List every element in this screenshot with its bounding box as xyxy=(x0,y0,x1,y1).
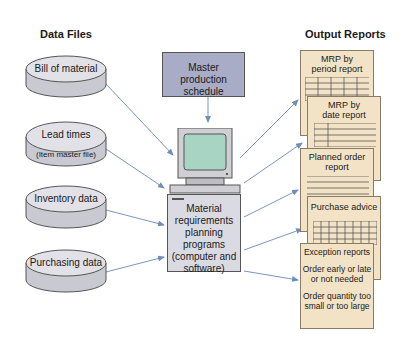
exception-item-2: Order quantity too small or too large xyxy=(301,291,373,311)
mrp-line: planning xyxy=(168,227,240,239)
arrow-purchase xyxy=(244,229,302,250)
arrow-purchasing xyxy=(106,257,164,272)
mps-line2: production schedule xyxy=(163,74,244,98)
data-file-label: Bill of material xyxy=(25,63,107,74)
data-file-label: Purchasing data xyxy=(25,257,107,268)
mrp-line: (computer and xyxy=(168,251,240,263)
database-cylinder-icon xyxy=(25,120,107,168)
arrow-inventory xyxy=(106,210,164,225)
data-files-heading: Data Files xyxy=(40,28,92,40)
report-title: Planned order report xyxy=(301,152,373,172)
table-grid-icon xyxy=(313,221,377,245)
master-production-schedule-box: Master production schedule xyxy=(162,52,245,97)
mrp-line: programs xyxy=(168,239,240,251)
arrow-exception xyxy=(244,271,298,280)
exception-item-1: Order early or late or not needed xyxy=(301,264,373,284)
table-grid-icon xyxy=(314,123,376,147)
data-file-purchasing-data: Purchasing data xyxy=(25,248,107,292)
mrp-programs-box: Material requirements planning programs … xyxy=(167,194,241,272)
arrow-leadtimes xyxy=(106,149,164,188)
arrow-period xyxy=(240,100,298,158)
mrp-line: software) xyxy=(168,263,240,275)
mrp-line: requirements xyxy=(168,215,240,227)
mrp-line: Material xyxy=(168,203,240,215)
report-title: MRP by date report xyxy=(308,100,380,120)
data-file-inventory-data: Inventory data xyxy=(25,184,107,228)
data-file-lead-times: Lead times (Item master file) xyxy=(25,120,107,164)
arrow-date xyxy=(244,143,302,183)
database-cylinder-icon xyxy=(25,248,107,294)
data-file-label: Lead times xyxy=(25,129,107,140)
exception-title: Exception reports xyxy=(301,247,373,257)
report-title: Purchase advice xyxy=(308,202,380,212)
arrow-planned xyxy=(244,190,298,217)
mps-line1: Master xyxy=(163,62,244,74)
computer-monitor-icon xyxy=(168,128,242,196)
data-file-label: Inventory data xyxy=(25,193,107,204)
database-cylinder-icon xyxy=(25,54,107,98)
data-file-bill-of-material: Bill of material xyxy=(25,54,107,98)
disk-slot-icon xyxy=(172,198,184,200)
report-exception: Exception reports Order early or late or… xyxy=(300,243,374,329)
report-title: MRP by period report xyxy=(301,54,373,74)
data-file-sublabel: (Item master file) xyxy=(25,150,107,159)
output-reports-heading: Output Reports xyxy=(305,28,386,40)
database-cylinder-icon xyxy=(25,184,107,230)
